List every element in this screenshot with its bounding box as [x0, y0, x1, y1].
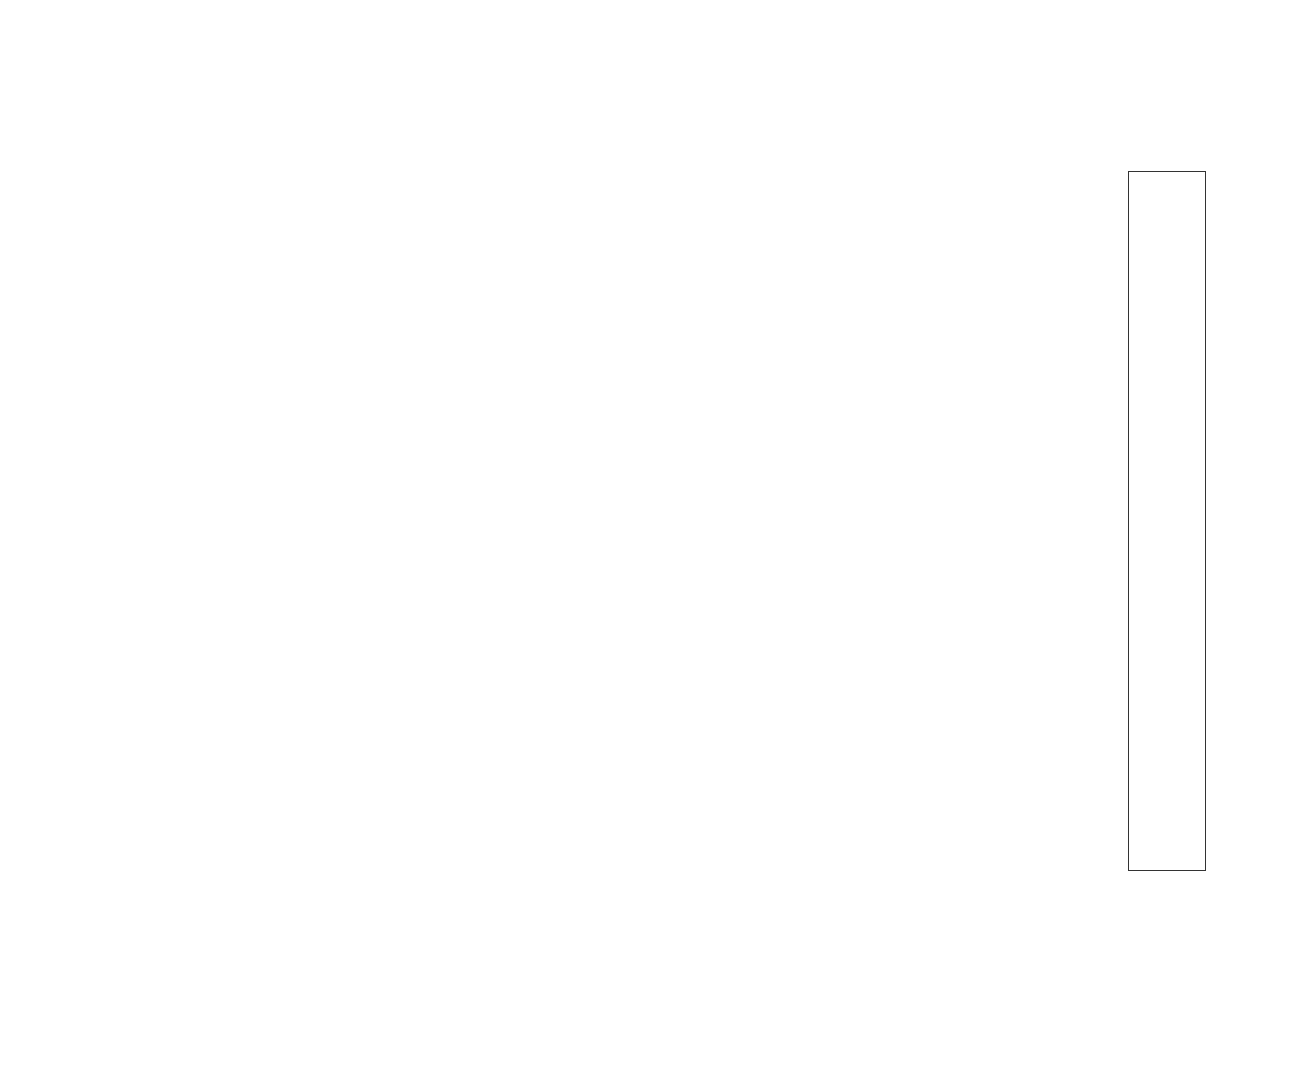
bar3d-plot — [0, 0, 1100, 1091]
colorbar — [1128, 171, 1206, 871]
